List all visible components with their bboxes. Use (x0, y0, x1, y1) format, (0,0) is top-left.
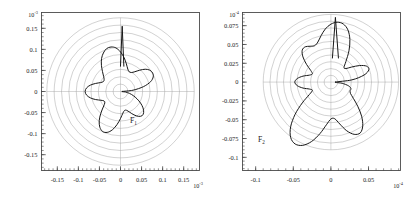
x-axis-exponent-label-left: 10-3 (193, 181, 203, 189)
polar-spike-f1 (121, 26, 124, 66)
polar-curve-f2 (290, 22, 369, 145)
y-tick-label: 0.15 (26, 25, 37, 32)
x-tick-label: -0.1 (251, 176, 261, 183)
y-tick-label: 0.1 (30, 46, 38, 53)
x-tick-label: 0.05 (363, 176, 374, 183)
y-axis-exponent-label-right: 10-4 (229, 10, 240, 18)
x-tick-label: 0.05 (136, 176, 147, 183)
x-tick-label: -0.15 (51, 176, 64, 183)
y-tick-label: 0.075 (224, 22, 238, 29)
y-tick-label: -0.05 (24, 109, 37, 116)
polar-plot-panel-left: -0.15-0.1-0.0500.050.10.15-0.15-0.1-0.05… (0, 0, 209, 207)
polar-plot-panel-right: -0.1-0.0500.05-0.1-0.075-0.05-0.02500.02… (210, 0, 419, 207)
x-tick-label: 0.15 (178, 176, 189, 183)
y-tick-label: 0 (34, 88, 37, 95)
x-tick-label: -0.05 (287, 176, 300, 183)
x-tick-label: 0 (119, 176, 122, 183)
tick-labels-right: -0.1-0.0500.05-0.1-0.075-0.05-0.02500.02… (222, 22, 374, 183)
polar-plot-svg-left: -0.15-0.1-0.0500.050.10.15-0.15-0.1-0.05… (0, 0, 209, 207)
axis-ticks-right (243, 14, 399, 170)
curve-annotation-f2: F2 (258, 135, 265, 145)
x-tick-label: -0.1 (73, 176, 83, 183)
x-tick-label: 0.1 (159, 176, 167, 183)
x-tick-label: 0 (329, 176, 332, 183)
figure-canvas: -0.15-0.1-0.0500.050.10.15-0.15-0.1-0.05… (0, 0, 419, 207)
y-tick-label: 0.05 (26, 67, 37, 74)
polar-curve-f1 (85, 47, 153, 133)
x-axis-exponent-label-right: 10-4 (393, 181, 404, 189)
y-tick-label: 0 (235, 78, 238, 85)
curve-annotation-f1: F1 (130, 116, 137, 126)
y-tick-label: -0.1 (228, 154, 238, 161)
plot-frame-right (243, 13, 401, 171)
y-tick-label: -0.1 (27, 130, 37, 137)
y-axis-exponent-label-left: 10-3 (28, 10, 38, 18)
grid-spokes-right (263, 14, 398, 149)
grid-spokes-left (47, 18, 194, 165)
axis-ticks-left (42, 16, 197, 171)
y-tick-label: 0.025 (224, 60, 238, 67)
y-tick-label: -0.025 (222, 97, 239, 104)
x-tick-label: -0.05 (93, 176, 106, 183)
polar-plot-svg-right: -0.1-0.0500.05-0.1-0.075-0.05-0.02500.02… (210, 0, 419, 207)
y-tick-label: -0.075 (222, 135, 239, 142)
y-tick-label: -0.15 (24, 151, 37, 158)
y-tick-label: 0.05 (227, 41, 238, 48)
y-tick-label: -0.05 (225, 116, 238, 123)
